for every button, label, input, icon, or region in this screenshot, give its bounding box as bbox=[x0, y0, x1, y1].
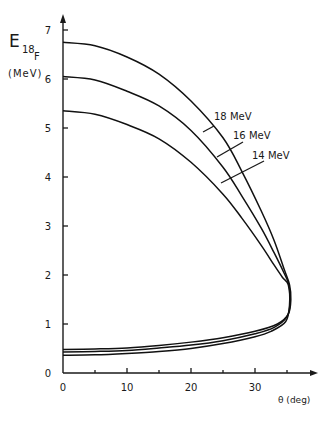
x-tick-label: 0 bbox=[60, 382, 66, 393]
x-axis-label: θ (deg) bbox=[278, 395, 310, 405]
label-leader-line bbox=[203, 126, 214, 132]
curve-label: 18 MeV bbox=[214, 111, 252, 122]
x-tick-label: 10 bbox=[121, 382, 134, 393]
y-axis-label-subsub: F bbox=[34, 51, 40, 62]
label-leader-line bbox=[217, 142, 243, 157]
curve-labels: 18 MeV16 MeV14 MeV bbox=[203, 111, 290, 183]
curve-18-mev bbox=[63, 42, 291, 349]
y-axis-label-sub: 18 bbox=[22, 44, 35, 55]
curve-16-mev bbox=[63, 77, 290, 352]
y-tick-label: 1 bbox=[45, 319, 51, 330]
axes bbox=[60, 14, 318, 376]
y-axis-arrow-icon bbox=[60, 14, 66, 23]
energy-vs-angle-chart: 010203001234567 18 MeV16 MeV14 MeV E 18 … bbox=[0, 0, 324, 423]
y-tick-label: 6 bbox=[45, 74, 51, 85]
curves bbox=[63, 42, 291, 355]
curve-14-mev bbox=[63, 111, 290, 356]
y-tick-label: 2 bbox=[45, 270, 51, 281]
y-tick-label: 5 bbox=[45, 123, 51, 134]
y-tick-label: 7 bbox=[45, 25, 51, 36]
y-axis-label-main: E bbox=[9, 31, 20, 51]
x-axis-arrow-icon bbox=[310, 370, 318, 376]
y-axis-unit: (MeV) bbox=[8, 68, 42, 79]
curve-label: 14 MeV bbox=[252, 150, 290, 161]
x-tick-label: 20 bbox=[185, 382, 198, 393]
y-tick-label: 4 bbox=[45, 172, 51, 183]
curve-label: 16 MeV bbox=[233, 130, 271, 141]
y-tick-label: 3 bbox=[45, 221, 51, 232]
y-tick-label: 0 bbox=[45, 368, 51, 379]
x-tick-label: 30 bbox=[249, 382, 262, 393]
